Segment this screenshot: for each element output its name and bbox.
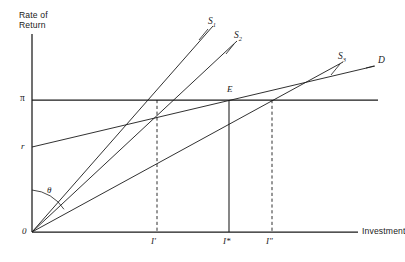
curve-label-s1-sub: 1 <box>213 21 216 28</box>
curve-label-s3: S3 <box>338 51 346 63</box>
y-tick-pi: π <box>20 93 25 104</box>
curve-d <box>32 66 375 147</box>
y-axis-title: Rate of Return <box>19 11 48 30</box>
y-tick-r: r <box>21 141 25 151</box>
x-axis-title: Investment <box>362 227 405 237</box>
curve-s1 <box>32 26 213 232</box>
curve-label-s2-sub: 2 <box>239 35 242 42</box>
x-tick-i-double-prime: I″ <box>266 236 273 246</box>
y-axis-title-line1: Rate of <box>19 10 48 20</box>
x-tick-i-prime: I′ <box>151 236 156 246</box>
diagram-canvas <box>0 0 405 262</box>
point-label-equilibrium: E <box>227 84 233 94</box>
curve-label-d-base: D <box>378 55 385 65</box>
curve-label-s2: S2 <box>234 30 242 42</box>
economics-diagram-figure: Rate of Return Investment 0 π r I′ I* I″… <box>0 0 405 262</box>
angle-label-theta: θ <box>47 185 51 195</box>
leader-s1 <box>199 29 208 40</box>
leader-s2 <box>226 44 234 54</box>
origin-label: 0 <box>22 226 27 236</box>
curve-label-s1: S1 <box>208 16 216 28</box>
x-tick-i-star: I* <box>223 236 231 246</box>
y-axis-title-line2: Return <box>19 20 46 30</box>
leader-d <box>366 66 374 68</box>
curve-label-s3-sub: 3 <box>343 56 346 63</box>
curve-label-d: D <box>378 55 385 66</box>
